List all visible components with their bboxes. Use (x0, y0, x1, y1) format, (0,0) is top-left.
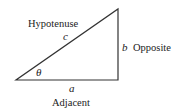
adjacent-symbol: a (69, 82, 75, 94)
opposite-symbol: b (122, 41, 128, 53)
angle-symbol: θ (36, 66, 42, 78)
opposite-label: Opposite (133, 42, 171, 53)
hypotenuse-label: Hypotenuse (28, 18, 78, 29)
right-triangle-diagram: Hypotenuse c θ a Adjacent b Opposite (0, 0, 179, 112)
hypotenuse-symbol: c (63, 30, 68, 42)
adjacent-label: Adjacent (52, 97, 90, 108)
